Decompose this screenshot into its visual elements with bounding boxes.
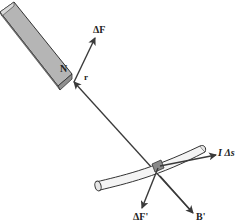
label-b-prime: B' [196, 212, 205, 222]
bar-magnet [0, 2, 72, 90]
label-delta-f-prime: ΔF' [133, 212, 148, 222]
label-r: r [84, 73, 88, 82]
label-delta-f: ΔF [93, 25, 105, 35]
label-i-delta-s: I Δs [218, 148, 235, 158]
label-north-pole: N [60, 64, 67, 74]
b-prime-arrow [160, 176, 193, 213]
wire-segment [94, 145, 206, 191]
diagram-canvas [0, 0, 240, 224]
